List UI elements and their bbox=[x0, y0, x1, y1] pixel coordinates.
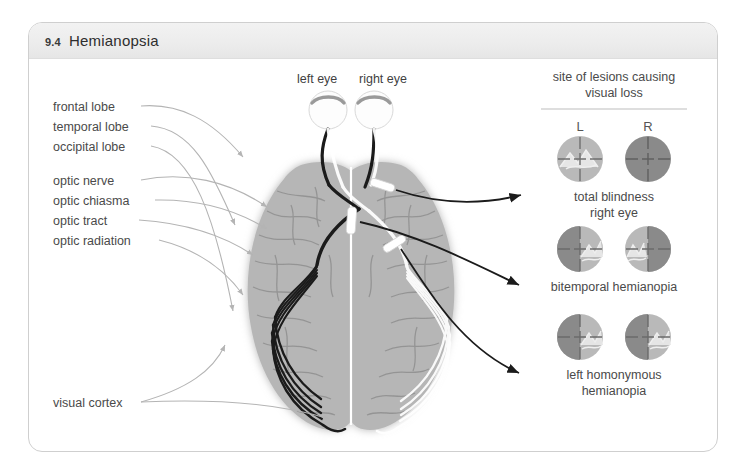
lesion-panel-heading: site of lesions causing visual loss L R bbox=[541, 70, 687, 134]
label-visual-cortex: visual cortex bbox=[53, 396, 123, 410]
figure-card: 9.4 Hemianopsia bbox=[28, 22, 718, 452]
field-circle-row3-right bbox=[625, 314, 671, 360]
caption-row1-line2: right eye bbox=[590, 206, 638, 220]
field-circle-row1-left bbox=[557, 136, 603, 182]
leader-optic-chiasma bbox=[155, 200, 267, 229]
figure-number: 9.4 bbox=[45, 36, 61, 48]
diagram-canvas: left eye right eye bbox=[29, 59, 717, 452]
label-optic-nerve: optic nerve bbox=[53, 174, 114, 188]
panel-heading-line1: site of lesions causing bbox=[553, 70, 675, 84]
column-label-left: L bbox=[576, 119, 583, 134]
leader-optic-tract bbox=[139, 220, 253, 255]
caption-row2-line1: bitemporal hemianopia bbox=[551, 280, 678, 294]
figure-title: Hemianopsia bbox=[69, 32, 159, 49]
eyes-group bbox=[309, 91, 393, 129]
caption-row3-line1: left homonymous bbox=[566, 368, 661, 382]
field-row-left-homonymous-hemianopia: left homonymous hemianopia bbox=[557, 314, 671, 398]
label-optic-chiasma: optic chiasma bbox=[53, 194, 129, 208]
field-circle-row2-left bbox=[557, 226, 603, 272]
caption-row1-line1: total blindness bbox=[574, 190, 654, 204]
field-row-total-blindness-right-eye: total blindness right eye bbox=[557, 136, 671, 220]
label-optic-tract: optic tract bbox=[53, 214, 108, 228]
field-circle-row3-left bbox=[557, 314, 603, 360]
label-frontal-lobe: frontal lobe bbox=[53, 100, 115, 114]
field-row-bitemporal-hemianopia: bitemporal hemianopia bbox=[551, 226, 678, 294]
right-eye-label: right eye bbox=[359, 72, 407, 86]
anatomy-label-group: frontal lobe temporal lobe occipital lob… bbox=[53, 100, 131, 410]
hemianopsia-diagram: left eye right eye bbox=[29, 59, 717, 452]
leader-optic-radiation bbox=[159, 240, 243, 295]
label-optic-radiation: optic radiation bbox=[53, 234, 131, 248]
panel-heading-line2: visual loss bbox=[585, 86, 643, 100]
leader-visual-cortex-2 bbox=[141, 345, 225, 402]
field-circle-row1-right bbox=[625, 136, 671, 182]
leader-frontal-lobe bbox=[141, 106, 243, 157]
field-circle-row2-right bbox=[625, 226, 671, 272]
label-temporal-lobe: temporal lobe bbox=[53, 120, 129, 134]
left-eye-label: left eye bbox=[297, 72, 337, 86]
leader-temporal-lobe bbox=[151, 126, 235, 225]
column-label-right: R bbox=[643, 119, 652, 134]
lesion-marker-optic-chiasma[interactable] bbox=[346, 207, 357, 235]
figure-header-band: 9.4 Hemianopsia bbox=[29, 23, 717, 59]
label-occipital-lobe: occipital lobe bbox=[53, 140, 125, 154]
caption-row3-line2: hemianopia bbox=[582, 384, 647, 398]
brain-right-hemisphere bbox=[351, 162, 454, 430]
